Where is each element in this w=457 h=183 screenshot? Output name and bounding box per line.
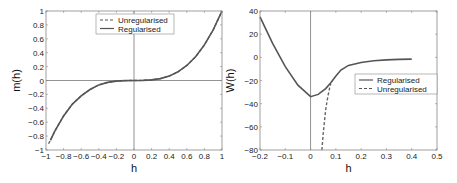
chart-m-of-h: −1−0.8−0.6−0.4−0.200.20.40.60.81−1−0.8−0… bbox=[10, 7, 225, 174]
x-tick-label: 0.8 bbox=[199, 152, 211, 161]
y-axis-label: m(h) bbox=[10, 69, 22, 92]
y-tick-label: −0.8 bbox=[28, 132, 44, 141]
y-tick-label: 0.2 bbox=[33, 63, 45, 72]
x-tick-label: 0.2 bbox=[146, 152, 158, 161]
y-tick-label: 20 bbox=[249, 30, 258, 39]
x-tick-label: 0.4 bbox=[406, 152, 418, 161]
y-tick-label: −60 bbox=[244, 123, 258, 132]
x-tick-label: 0.6 bbox=[181, 152, 193, 161]
x-tick-label: −0.8 bbox=[56, 152, 72, 161]
legend-label: Regularised bbox=[118, 25, 161, 34]
y-tick-label: 1 bbox=[40, 7, 45, 16]
legend: RegularisedUnregularised bbox=[355, 74, 437, 94]
series-unregularised bbox=[322, 84, 331, 150]
x-tick-label: 0.2 bbox=[356, 152, 368, 161]
y-tick-label: −0.4 bbox=[28, 104, 44, 113]
x-tick-label: −0.2 bbox=[109, 152, 125, 161]
x-tick-label: 0.3 bbox=[381, 152, 393, 161]
x-axis-label: h bbox=[345, 162, 351, 174]
legend: UnregularisedRegularised bbox=[96, 14, 174, 34]
y-tick-label: 0 bbox=[254, 53, 259, 62]
y-tick-label: −0.2 bbox=[28, 90, 44, 99]
x-tick-label: 0 bbox=[308, 152, 313, 161]
x-tick-label: −0.4 bbox=[91, 152, 107, 161]
y-axis-label: W(h) bbox=[224, 69, 236, 93]
x-tick-label: −0.1 bbox=[277, 152, 293, 161]
y-tick-label: 0.8 bbox=[33, 21, 45, 30]
y-tick-label: 40 bbox=[249, 7, 258, 16]
y-tick-label: 0.6 bbox=[33, 35, 45, 44]
y-tick-label: −20 bbox=[244, 77, 258, 86]
x-tick-label: −0.6 bbox=[73, 152, 89, 161]
y-tick-label: 0.4 bbox=[33, 49, 45, 58]
x-tick-label: 0.5 bbox=[431, 152, 443, 161]
y-tick-label: −1 bbox=[35, 146, 45, 155]
x-axis-label: h bbox=[131, 162, 137, 174]
y-tick-label: −0.6 bbox=[28, 118, 44, 127]
legend-label: Unregularised bbox=[377, 85, 427, 94]
x-tick-label: 0.1 bbox=[330, 152, 342, 161]
chart-W-of-h: −0.2−0.100.10.20.30.40.5−80−60−40−200204… bbox=[224, 7, 443, 174]
figure: −1−0.8−0.6−0.4−0.200.20.40.60.81−1−0.8−0… bbox=[0, 0, 457, 183]
y-tick-label: 0 bbox=[40, 77, 45, 86]
x-tick-label: 1 bbox=[220, 152, 225, 161]
y-tick-label: −40 bbox=[244, 100, 258, 109]
x-tick-label: 0 bbox=[132, 152, 137, 161]
x-tick-label: 0.4 bbox=[164, 152, 176, 161]
y-tick-label: −80 bbox=[244, 146, 258, 155]
